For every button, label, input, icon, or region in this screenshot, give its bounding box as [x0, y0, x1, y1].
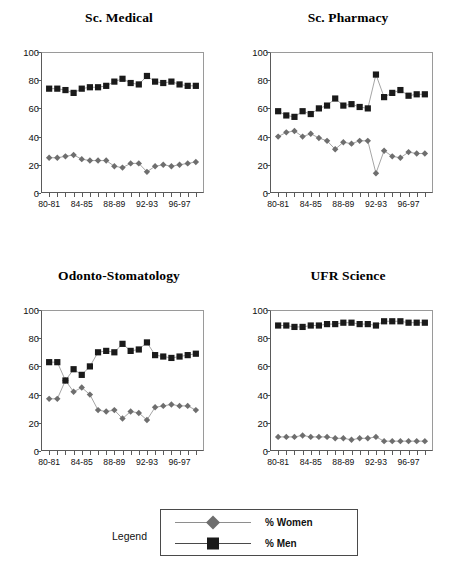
data-point-men: [144, 339, 150, 345]
x-axis-tick: [278, 193, 279, 197]
data-point-men: [136, 346, 142, 352]
legend: Legend % Women % Men: [0, 505, 457, 565]
data-point-women: [62, 153, 68, 159]
x-axis-tick-label: 88-89: [332, 457, 354, 467]
data-point-men: [373, 71, 379, 77]
data-point-men: [62, 377, 68, 383]
data-point-women: [316, 434, 322, 440]
data-point-men: [79, 86, 85, 92]
data-point-men: [357, 321, 363, 327]
x-axis-tick: [188, 193, 189, 197]
data-point-women: [275, 434, 281, 440]
x-axis-tick-label: 96-97: [169, 199, 191, 209]
x-axis-tick-label: 80-81: [267, 199, 289, 209]
plot-wrapper: 020406080100 80-8184-8588-8992-9396-97: [243, 48, 453, 238]
x-axis-tick: [352, 451, 353, 455]
x-axis-tick: [384, 193, 385, 197]
x-axis-labels: 80-8184-8588-8992-9396-97: [243, 199, 453, 215]
chart-panel-sc-medical: Sc. Medical 020406080100 80-8184-8588-89…: [14, 10, 224, 240]
data-point-women: [103, 408, 109, 414]
chart-panel-sc-pharmacy: Sc. Pharmacy 020406080100 80-8184-8588-8…: [243, 10, 453, 240]
x-axis-tick: [368, 193, 369, 197]
x-axis-ticks: [41, 193, 204, 198]
data-point-women: [389, 153, 395, 159]
x-axis-tick: [147, 193, 148, 197]
diamond-marker-icon: [171, 511, 255, 534]
data-point-men: [160, 353, 166, 359]
x-axis-ticks: [270, 193, 433, 198]
data-point-men: [119, 341, 125, 347]
x-axis-tick: [131, 193, 132, 197]
data-point-women: [193, 407, 199, 413]
x-axis-tick: [376, 193, 377, 197]
x-axis-tick: [425, 193, 426, 197]
x-axis-labels: 80-8184-8588-8992-9396-97: [243, 457, 453, 473]
x-axis-tick-label: 84-85: [71, 199, 93, 209]
data-point-women: [160, 403, 166, 409]
data-point-women: [275, 133, 281, 139]
x-axis-tick-label: 92-93: [136, 199, 158, 209]
x-axis-ticks: [41, 451, 204, 456]
data-point-men: [300, 324, 306, 330]
data-point-men: [54, 86, 60, 92]
data-point-women: [397, 155, 403, 161]
x-axis-tick: [286, 451, 287, 455]
x-axis-tick: [384, 451, 385, 455]
series-layer: [41, 310, 204, 451]
data-point-women: [103, 157, 109, 163]
data-point-men: [111, 349, 117, 355]
data-point-men: [308, 111, 314, 117]
data-point-men: [275, 322, 281, 328]
data-point-men: [414, 91, 420, 97]
data-point-men: [152, 352, 158, 358]
x-axis-tick: [139, 451, 140, 455]
x-axis-tick: [311, 193, 312, 197]
data-point-men: [308, 322, 314, 328]
x-axis-tick: [196, 193, 197, 197]
data-point-men: [405, 320, 411, 326]
x-axis-tick-label: 80-81: [267, 457, 289, 467]
data-point-men: [373, 322, 379, 328]
chart-title: Sc. Pharmacy: [243, 10, 453, 26]
x-axis-tick: [180, 451, 181, 455]
x-axis-tick: [155, 193, 156, 197]
data-point-women: [291, 434, 297, 440]
x-axis-tick-label: 96-97: [169, 457, 191, 467]
series-line: [49, 381, 196, 420]
x-axis-tick: [98, 193, 99, 197]
data-point-men: [46, 86, 52, 92]
data-point-women: [70, 389, 76, 395]
data-point-men: [332, 321, 338, 327]
data-point-women: [356, 435, 362, 441]
x-axis-tick-label: 96-97: [398, 199, 420, 209]
x-axis-ticks: [270, 451, 433, 456]
legend-label: Legend: [112, 530, 147, 542]
data-point-men: [275, 108, 281, 114]
x-axis-tick: [114, 193, 115, 197]
data-point-men: [348, 320, 354, 326]
data-point-men: [422, 320, 428, 326]
plot-wrapper: 020406080100 80-8184-8588-8992-9396-97: [243, 306, 453, 496]
x-axis-tick: [303, 193, 304, 197]
chart-title: UFR Science: [243, 268, 453, 284]
data-point-women: [168, 401, 174, 407]
data-point-women: [299, 133, 305, 139]
data-point-men: [381, 94, 387, 100]
data-point-women: [422, 150, 428, 156]
x-axis-tick: [147, 451, 148, 455]
data-point-women: [348, 437, 354, 443]
x-axis-tick: [139, 193, 140, 197]
series-layer: [270, 310, 433, 451]
data-point-men: [46, 359, 52, 365]
x-axis-tick: [163, 451, 164, 455]
data-point-men: [176, 353, 182, 359]
data-point-women: [283, 129, 289, 135]
data-point-men: [291, 114, 297, 120]
data-point-women: [397, 438, 403, 444]
x-axis-tick: [106, 451, 107, 455]
data-point-women: [193, 159, 199, 165]
data-point-men: [348, 101, 354, 107]
data-point-men: [316, 105, 322, 111]
x-axis-tick-label: 84-85: [71, 457, 93, 467]
data-point-men: [283, 112, 289, 118]
